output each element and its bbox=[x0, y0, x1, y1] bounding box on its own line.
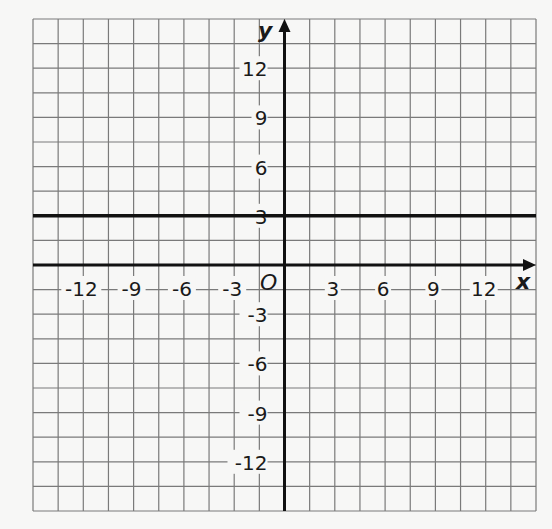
x-tick-label: 9 bbox=[427, 277, 440, 301]
y-axis-label: y bbox=[258, 18, 274, 43]
x-tick-label: -12 bbox=[65, 277, 98, 301]
x-axis-label: x bbox=[515, 269, 531, 294]
y-tick-label: 12 bbox=[242, 57, 267, 81]
x-tick-label: 6 bbox=[377, 277, 390, 301]
x-tick-label: 3 bbox=[326, 277, 339, 301]
y-tick-label: -9 bbox=[248, 402, 268, 426]
coordinate-plane: -12-9-6-33691212963-3-6-9-12 y x O bbox=[0, 0, 552, 529]
y-tick-label: -6 bbox=[248, 352, 268, 376]
y-tick-label: 9 bbox=[255, 106, 268, 130]
x-tick-label: -3 bbox=[222, 277, 242, 301]
x-tick-label: -9 bbox=[122, 277, 142, 301]
x-tick-label: 12 bbox=[471, 277, 496, 301]
origin-label: O bbox=[260, 270, 277, 295]
y-tick-label: -3 bbox=[248, 303, 268, 327]
axis-names: y x O bbox=[258, 18, 531, 295]
y-axis-arrow-icon bbox=[279, 19, 291, 32]
y-tick-label: 6 bbox=[255, 156, 268, 180]
x-tick-label: -6 bbox=[172, 277, 192, 301]
y-tick-label: -12 bbox=[235, 451, 268, 475]
